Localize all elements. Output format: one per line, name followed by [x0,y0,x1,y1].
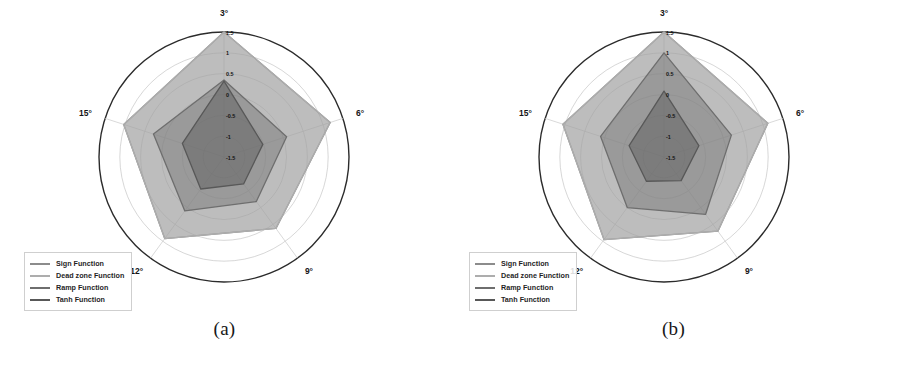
legend-item-label: Dead zone Function [501,271,569,280]
radial-tick-label: 1.5 [226,30,234,36]
legend-item-label: Ramp Function [56,283,108,292]
radial-tick-label: 0.5 [226,71,234,77]
legend-item-tanh-function[interactable]: Tanh Function [475,294,569,305]
legend-swatch-icon [475,299,495,301]
radial-tick-label: -1 [666,134,671,140]
radial-tick-label: 0.5 [666,71,674,77]
legend-item-label: Tanh Function [56,295,105,304]
legend-b: Sign FunctionDead zone FunctionRamp Func… [469,252,577,311]
figure-row: 1.510.50-0.5-1-1.53°6°9°12°15° Sign Func… [0,0,898,382]
legend-item-label: Dead zone Function [56,271,124,280]
radial-tick-label: -1.5 [226,155,235,161]
legend-item-label: Tanh Function [501,295,550,304]
angle-label-6°: 6° [796,108,805,118]
radial-tick-label: 1.5 [666,30,674,36]
legend-swatch-icon [475,263,495,265]
legend-item-dead-zone-function[interactable]: Dead zone Function [30,270,124,281]
legend-swatch-icon [30,275,50,277]
angle-label-9°: 9° [305,266,314,276]
legend-item-label: Sign Function [56,259,104,268]
legend-item-sign-function[interactable]: Sign Function [475,258,569,269]
legend-a: Sign FunctionDead zone FunctionRamp Func… [24,252,132,311]
legend-item-sign-function[interactable]: Sign Function [30,258,124,269]
subfigure-a: 1.510.50-0.5-1-1.53°6°9°12°15° Sign Func… [0,0,449,382]
legend-swatch-icon [475,275,495,277]
legend-swatch-icon [30,287,50,289]
angle-label-15°: 15° [79,108,92,118]
legend-item-tanh-function[interactable]: Tanh Function [30,294,124,305]
radial-tick-label: 1 [226,50,229,56]
angle-label-9°: 9° [745,266,754,276]
angle-label-3°: 3° [220,8,229,18]
subfigure-caption-a: (a) [0,318,449,340]
radial-tick-label: 0 [226,92,229,98]
radial-tick-label: 0 [666,92,669,98]
legend-item-ramp-function[interactable]: Ramp Function [475,282,569,293]
subfigure-caption-b: (b) [449,318,898,340]
angle-label-15°: 15° [519,108,532,118]
radial-tick-label: -1.5 [666,155,675,161]
radial-tick-label: -1 [226,134,231,140]
legend-item-label: Sign Function [501,259,549,268]
legend-swatch-icon [30,299,50,301]
angle-label-3°: 3° [660,8,669,18]
legend-swatch-icon [475,287,495,289]
subfigure-b: 1.510.50-0.5-1-1.53°6°9°12°15° Sign Func… [449,0,898,382]
radial-tick-label: -0.5 [226,113,235,119]
radial-tick-label: -0.5 [666,113,675,119]
legend-item-dead-zone-function[interactable]: Dead zone Function [475,270,569,281]
legend-item-label: Ramp Function [501,283,553,292]
radial-tick-label: 1 [666,50,669,56]
angle-label-6°: 6° [356,108,365,118]
legend-swatch-icon [30,263,50,265]
legend-item-ramp-function[interactable]: Ramp Function [30,282,124,293]
